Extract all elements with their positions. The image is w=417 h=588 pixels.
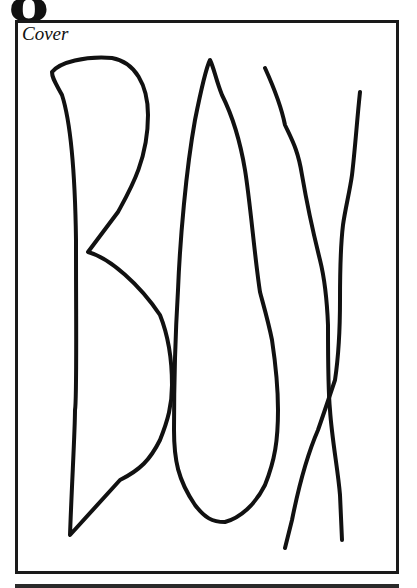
letter-x-stroke-2 [285,92,360,548]
letter-o-stroke [174,60,278,522]
letter-b-stroke [52,58,172,535]
bottom-rule [15,584,399,588]
